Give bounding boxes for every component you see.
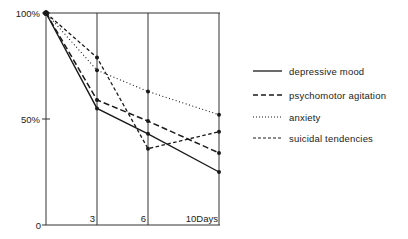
x-label-3: 3 xyxy=(90,213,95,224)
y-label-0: 0 xyxy=(36,220,41,231)
x-label-10-days: 10Days xyxy=(186,213,218,224)
legend-label: psychomotor agitation xyxy=(289,90,386,101)
long-dash-line-swatch-icon xyxy=(253,93,282,97)
legend-item-suicidal-tendencies: suicidal tendencies xyxy=(253,130,373,146)
series-layer xyxy=(43,10,221,174)
data-point-marker xyxy=(146,119,150,123)
dotted-line-swatch-icon xyxy=(253,115,282,119)
data-point-marker xyxy=(146,89,150,93)
series-line-anxiety xyxy=(46,13,219,115)
data-point-marker xyxy=(217,151,221,155)
legend-label: depressive mood xyxy=(289,66,364,77)
legend-item-anxiety: anxiety xyxy=(253,109,321,125)
line-chart: 100% 50% 0 3 6 10Days xyxy=(0,0,408,239)
x-label-6: 6 xyxy=(141,213,146,224)
data-point-marker xyxy=(95,106,99,110)
data-point-marker xyxy=(43,10,48,15)
legend-item-psychomotor-agitation: psychomotor agitation xyxy=(253,87,386,103)
legend-label: anxiety xyxy=(289,112,321,123)
data-point-marker xyxy=(217,170,221,174)
data-point-marker xyxy=(146,147,150,151)
data-point-marker xyxy=(95,68,99,72)
legend-item-depressive-mood: depressive mood xyxy=(253,63,364,79)
data-point-marker xyxy=(95,56,99,60)
series-line-suicidal-tendencies xyxy=(46,13,219,149)
series-line-depressive-mood xyxy=(46,13,219,172)
data-point-marker xyxy=(95,98,99,102)
data-point-marker xyxy=(217,113,221,117)
data-point-marker xyxy=(217,130,221,134)
short-dash-line-swatch-icon xyxy=(253,136,282,140)
solid-line-swatch-icon xyxy=(253,69,282,73)
legend-label: suicidal tendencies xyxy=(289,133,373,144)
y-label-50: 50% xyxy=(21,114,41,125)
plot-frame xyxy=(42,13,220,225)
series-line-psychomotor-agitation xyxy=(46,13,219,153)
data-point-marker xyxy=(146,132,150,136)
y-label-100: 100% xyxy=(16,8,41,19)
